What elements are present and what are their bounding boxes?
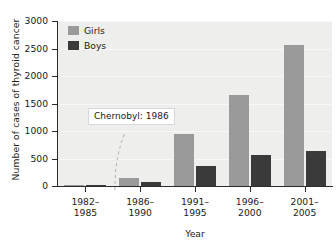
legend-label-girls: Girls [84, 25, 105, 36]
bar-boys-1996–2000 [251, 155, 271, 186]
x-axis-tick-label: 1996–2000 [220, 196, 280, 218]
bar-boys-1991–1995 [196, 166, 216, 186]
legend-swatch-girls-icon [68, 26, 79, 35]
x-axis-tick-label: 2001–2005 [275, 196, 335, 218]
y-axis-tick [52, 49, 57, 50]
bar-girls-1996–2000 [229, 95, 249, 186]
chernobyl-annotation: Chernobyl: 1986 [88, 108, 175, 125]
y-axis-tick-label: 1500 [2, 98, 48, 109]
y-axis-tick-label: 0 [2, 180, 48, 191]
x-axis-tick-label: 1982–1985 [55, 196, 115, 218]
thyroid-cancer-bar-chart: Number of cases of thyroid cancer Year 0… [0, 0, 336, 249]
gridline [58, 21, 332, 22]
y-axis-tick [52, 76, 57, 77]
y-axis-tick [52, 104, 57, 105]
x-axis-tick [250, 187, 251, 192]
x-axis-tick-label: 1986–1990 [110, 196, 170, 218]
x-axis-tick [195, 187, 196, 192]
legend-item-boys: Boys [68, 39, 106, 52]
legend-swatch-boys-icon [68, 41, 79, 50]
legend-item-girls: Girls [68, 24, 106, 37]
x-axis-tick-label: 1991–1995 [165, 196, 225, 218]
x-axis-tick [85, 187, 86, 192]
y-axis-tick-label: 3000 [2, 15, 48, 26]
y-axis-tick-label: 500 [2, 153, 48, 164]
legend-label-boys: Boys [84, 40, 106, 51]
y-axis-tick-label: 2500 [2, 43, 48, 54]
chart-legend: Girls Boys [68, 24, 106, 54]
x-axis-title: Year [55, 228, 335, 239]
x-axis-tick [140, 187, 141, 192]
y-axis-line [57, 21, 58, 187]
y-axis-tick [52, 159, 57, 160]
y-axis-tick [52, 21, 57, 22]
bar-girls-1991–1995 [174, 134, 194, 186]
bar-girls-1986–1990 [119, 178, 139, 186]
x-axis-tick [305, 187, 306, 192]
bar-boys-2001–2005 [306, 151, 326, 186]
y-axis-tick [52, 131, 57, 132]
y-axis-tick [52, 186, 57, 187]
y-axis-tick-label: 1000 [2, 125, 48, 136]
bar-girls-2001–2005 [284, 45, 304, 186]
y-axis-tick-label: 2000 [2, 70, 48, 81]
